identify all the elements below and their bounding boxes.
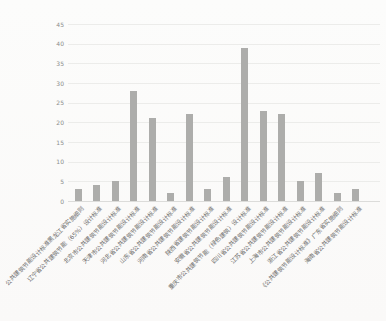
bar	[93, 185, 100, 201]
y-axis-tick-label: 15	[40, 139, 64, 146]
bar	[186, 114, 193, 201]
gridline	[68, 83, 380, 84]
bar	[278, 114, 285, 201]
gridline	[68, 24, 380, 25]
bar	[149, 118, 156, 201]
y-axis-tick-label: 40	[40, 40, 64, 47]
y-axis-tick-label: 25	[40, 99, 64, 106]
bar	[334, 193, 341, 201]
y-axis-tick-label: 0	[40, 198, 64, 205]
gridline	[68, 103, 380, 104]
gridline	[68, 122, 380, 123]
bar	[241, 48, 248, 201]
x-axis-category-label: 公共建筑节能设计标准黑龙江省实施细则	[4, 205, 85, 286]
bar	[167, 193, 174, 201]
bar	[260, 111, 267, 201]
y-axis-tick-label: 10	[40, 158, 64, 165]
y-axis-tick-label: 20	[40, 119, 64, 126]
bar-chart: 051015202530354045公共建筑节能设计标准黑龙江省实施细则辽宁省公…	[0, 0, 386, 321]
bar	[75, 189, 82, 201]
y-axis-tick-label: 30	[40, 80, 64, 87]
bar	[223, 177, 230, 201]
y-axis-tick-label: 45	[40, 21, 64, 28]
y-axis-tick-label: 35	[40, 60, 64, 67]
bar	[204, 189, 211, 201]
bar	[352, 189, 359, 201]
bar	[315, 173, 322, 201]
y-axis-tick-label: 5	[40, 178, 64, 185]
gridline	[68, 44, 380, 45]
bar	[297, 181, 304, 201]
bar	[112, 181, 119, 201]
bar	[130, 91, 137, 201]
gridline	[68, 162, 380, 163]
gridline	[68, 142, 380, 143]
x-axis-category-label: 辽宁省公共建筑节能（65%）设计标准	[25, 205, 103, 283]
x-axis-line	[68, 201, 380, 202]
gridline	[68, 63, 380, 64]
